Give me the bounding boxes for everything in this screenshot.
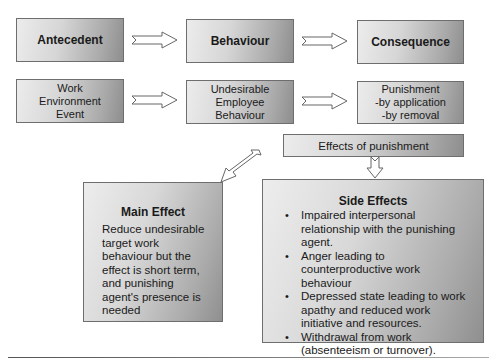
down-arrow-icon (366, 156, 384, 179)
box-line: Undesirable (211, 83, 270, 96)
box-line: Work (57, 82, 82, 95)
right-arrow-icon (131, 91, 179, 109)
box-line: Environment (39, 95, 101, 108)
effects-label: Effects of punishment (318, 140, 428, 152)
right-arrow-icon (301, 32, 349, 50)
side-effects-list: Impaired interpersonal relationship with… (273, 209, 473, 358)
box-line: Employee (216, 96, 265, 109)
list-item: Anger leading to counterproductive work … (301, 250, 473, 291)
list-item: Withdrawal from work (absenteeism or tur… (301, 331, 473, 358)
main-effect-title: Main Effect (102, 205, 212, 219)
main-effect-box: Main Effect Reduce undesirable target wo… (83, 182, 223, 322)
behaviour-label: Behaviour (211, 34, 270, 48)
work-environment-event-box: Work Environment Event (16, 79, 124, 123)
undesirable-behaviour-box: Undesirable Employee Behaviour (186, 80, 294, 124)
box-line: Event (56, 108, 84, 121)
box-line: Punishment (381, 83, 439, 96)
effects-of-punishment-box: Effects of punishment (283, 134, 464, 157)
consequence-box: Consequence (357, 20, 464, 64)
box-line: -by removal (382, 109, 439, 122)
list-item: Depressed state leading to work apathy a… (301, 290, 473, 331)
right-arrow-icon (131, 31, 179, 49)
punishment-box: Punishment -by application -by removal (357, 81, 464, 124)
bottom-divider (8, 357, 489, 358)
diagonal-arrow-icon (216, 148, 264, 188)
behaviour-box: Behaviour (186, 19, 294, 63)
box-line: Behaviour (215, 109, 265, 122)
right-arrow-icon (301, 92, 349, 110)
box-line: -by application (375, 96, 446, 109)
side-effects-title: Side Effects (273, 194, 473, 208)
side-effects-box: Side Effects Impaired interpersonal rela… (262, 179, 484, 343)
consequence-label: Consequence (371, 35, 450, 49)
antecedent-label: Antecedent (37, 33, 102, 47)
list-item: Impaired interpersonal relationship with… (301, 209, 473, 250)
antecedent-box: Antecedent (16, 18, 124, 62)
main-effect-body: Reduce undesirable target work behaviour… (102, 223, 212, 318)
